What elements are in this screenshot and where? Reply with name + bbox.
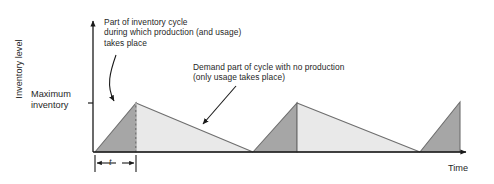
figure-canvas: | ===== --> Part of inventory cycle duri… <box>0 0 494 184</box>
annotation-production-phase: Part of inventory cycle during which pro… <box>104 17 241 48</box>
period-bracket <box>95 155 136 172</box>
period-label: t <box>109 157 112 167</box>
usage-area-cycle-2 <box>297 103 420 152</box>
demand-annotation-arrow <box>203 86 236 124</box>
x-axis-label: Time <box>448 163 468 173</box>
production-area-cycle-2 <box>253 103 297 152</box>
production-area-cycle-1 <box>95 103 136 152</box>
usage-area-cycle-1 <box>136 103 253 152</box>
inventory-cycle-chart: | ===== --> <box>0 0 494 184</box>
cycle-areas <box>95 102 460 152</box>
y-axis-label: Inventory level <box>14 24 24 114</box>
max-inventory-label: Maximum inventory <box>31 89 71 112</box>
production-annotation-arrow <box>110 55 116 101</box>
production-area-cycle-3 <box>420 102 460 152</box>
annotation-demand-phase: Demand part of cycle with no production … <box>193 62 344 83</box>
